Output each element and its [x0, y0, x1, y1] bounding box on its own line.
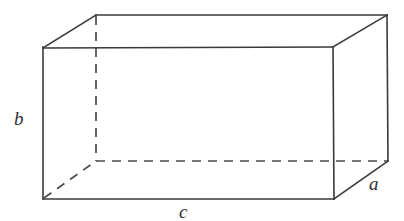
edge-front-right-vertical	[333, 47, 334, 199]
dimension-label-length: c	[179, 202, 187, 221]
edge-top-left-diagonal	[43, 15, 96, 48]
dimension-label-depth: a	[369, 174, 379, 193]
edge-bottom-right-diagonal	[334, 161, 388, 199]
edge-back-right-vertical	[387, 15, 388, 161]
edge-front-top	[43, 47, 333, 48]
box-diagram-figure: b c a	[0, 0, 404, 221]
cuboid-drawing	[0, 0, 404, 221]
hidden-edge-bottom-left-diagonal	[44, 161, 96, 198]
dimension-label-height: b	[14, 109, 24, 128]
edge-top-right-diagonal	[333, 15, 387, 47]
